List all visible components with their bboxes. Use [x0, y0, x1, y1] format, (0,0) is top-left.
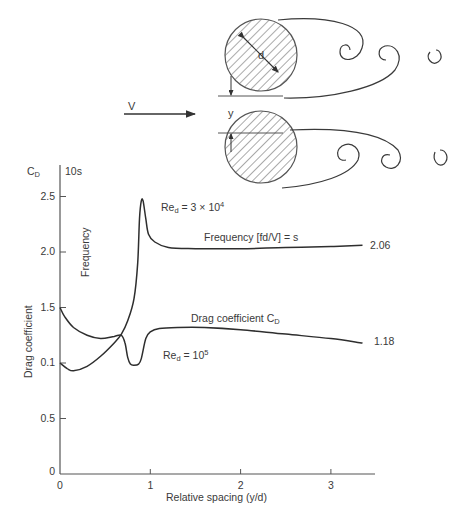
- re-symbol: Re: [163, 349, 176, 361]
- frequency-axis-header: 10s: [65, 166, 82, 177]
- drag-end-value: 1.18: [374, 336, 394, 347]
- x-tick-label: 0: [50, 480, 70, 491]
- x-ticks: [150, 469, 331, 474]
- flow-velocity-label: V: [128, 101, 135, 112]
- x-tick-label: 3: [321, 480, 341, 491]
- y-tick-label: 2.0: [31, 246, 55, 257]
- re-exponent: 4: [220, 200, 224, 209]
- drag-label-subscript: D: [274, 317, 279, 326]
- re-value: = 3 × 10: [179, 201, 220, 213]
- cd-symbol: C: [27, 165, 35, 177]
- bottom-vortex-small: [434, 150, 447, 165]
- bottom-wake-outer: [290, 129, 400, 168]
- y-tick-label: 1.5: [31, 302, 55, 313]
- y-axis-title: Drag coefficient: [22, 305, 34, 378]
- frequency-vertical-label: Frequency: [79, 227, 91, 277]
- x-tick-label: 2: [231, 480, 251, 491]
- re-value: = 10: [181, 349, 205, 361]
- frequency-series-label: Frequency [fd/V] = s: [204, 232, 298, 243]
- drag-series-label: Drag coefficient CD: [191, 313, 280, 326]
- figure: [0, 0, 453, 518]
- gap-label: y: [228, 108, 234, 119]
- y-ticks: [60, 197, 66, 419]
- cd-axis-header: CD: [27, 166, 40, 179]
- frequency-end-value: 2.06: [370, 240, 390, 251]
- frequency-curve: [60, 199, 363, 371]
- re-symbol: Re: [161, 201, 174, 213]
- re-high-annotation: Red = 3 × 104: [161, 201, 224, 215]
- re-exponent: 5: [204, 348, 208, 357]
- y-tick-label: 2.5: [31, 191, 55, 202]
- x-axis-title: Relative spacing (y/d): [166, 492, 267, 503]
- y-tick-label: 0: [31, 466, 55, 477]
- y-tick-label: 0.1: [31, 357, 55, 368]
- drag-label-text: Drag coefficient C: [191, 312, 274, 324]
- diameter-label: d: [258, 50, 264, 61]
- bottom-cylinder: [225, 111, 297, 183]
- cd-subscript: D: [35, 170, 40, 179]
- top-wake-inner: [284, 46, 399, 98]
- re-low-annotation: Red = 105: [163, 349, 208, 363]
- y-tick-label: 0.5: [31, 413, 55, 424]
- top-vortex-small: [428, 50, 441, 63]
- x-tick-label: 1: [140, 480, 160, 491]
- cylinder-pair-diagram: [124, 19, 447, 188]
